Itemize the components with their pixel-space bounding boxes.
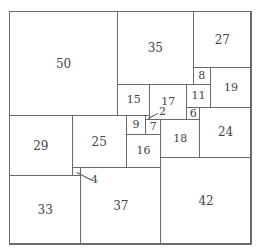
square-6: 6 (186, 107, 200, 120)
square-label: 37 (113, 199, 128, 213)
square-label: 18 (173, 132, 187, 145)
square-35: 35 (117, 11, 194, 85)
square-label: 42 (198, 194, 213, 208)
square-label: 29 (33, 139, 48, 153)
square-label: 11 (192, 89, 206, 102)
square-24: 24 (199, 107, 252, 158)
square-9: 9 (126, 115, 146, 135)
square-50: 50 (9, 11, 118, 116)
square-label: 8 (198, 69, 205, 82)
square-18: 18 (160, 119, 200, 157)
square-label: 9 (132, 118, 139, 131)
square-label: 25 (92, 135, 107, 149)
squared-square-diagram: 503527819151711624292597181642373324 (9, 11, 251, 244)
square-16: 16 (126, 134, 162, 168)
square-label: 27 (215, 33, 230, 47)
square-7: 7 (145, 119, 161, 135)
square-label: 6 (190, 107, 197, 120)
square-label: 7 (150, 120, 157, 133)
square-25: 25 (72, 115, 127, 168)
square-label: 16 (136, 144, 150, 157)
square-11: 11 (186, 84, 211, 108)
square-label: 19 (224, 81, 238, 94)
square-27: 27 (193, 11, 252, 68)
square-label-2: 2 (159, 105, 166, 118)
square-label: 33 (38, 203, 53, 217)
square-label: 35 (148, 41, 163, 55)
square-42: 42 (160, 157, 252, 245)
square-label: 50 (56, 57, 71, 71)
square-15: 15 (117, 84, 150, 116)
square-29: 29 (9, 115, 73, 176)
square-8: 8 (193, 67, 211, 85)
square-label: 15 (127, 93, 141, 106)
square-19: 19 (210, 67, 252, 108)
square-label: 24 (218, 125, 233, 139)
square-33: 33 (9, 175, 81, 245)
